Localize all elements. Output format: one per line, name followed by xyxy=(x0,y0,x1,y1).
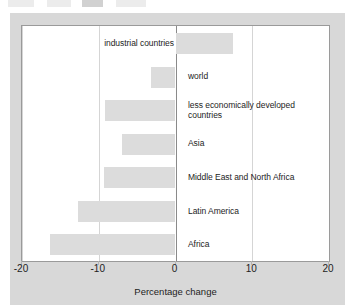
bar[interactable] xyxy=(105,100,176,121)
bar-label: Latin America xyxy=(188,206,239,216)
x-tick-label: -20 xyxy=(14,263,28,274)
toolbar-fragment xyxy=(8,0,34,7)
toolbar-fragment xyxy=(47,0,71,7)
bar[interactable] xyxy=(78,201,175,222)
toolbar-fragment xyxy=(82,0,103,7)
bar-label: less economically developed countries xyxy=(188,100,295,120)
x-tick-label: 20 xyxy=(322,263,333,274)
bar-chart-figure: industrial countriesworldless economical… xyxy=(10,13,345,305)
x-tick-label: -10 xyxy=(91,263,105,274)
x-tick-label: 0 xyxy=(172,263,178,274)
x-axis: -20-1001020 xyxy=(21,263,330,279)
bar-label: world xyxy=(188,71,208,81)
bar-label: Africa xyxy=(188,239,209,249)
bar[interactable] xyxy=(151,67,176,88)
bar-row[interactable]: Asia xyxy=(22,127,329,161)
toolbar-fragment xyxy=(116,0,146,7)
bar[interactable] xyxy=(122,134,176,155)
bar-row[interactable]: Middle East and North Africa xyxy=(22,160,329,194)
bar-row[interactable]: industrial countries xyxy=(22,26,329,60)
x-tick-label: 10 xyxy=(246,263,257,274)
bar-row[interactable]: Latin America xyxy=(22,194,329,228)
x-axis-title: Percentage change xyxy=(21,286,330,297)
plot-area: industrial countriesworldless economical… xyxy=(21,25,330,262)
bar-row[interactable]: world xyxy=(22,60,329,94)
bar-label: industrial countries xyxy=(104,38,174,48)
bar-label: Asia xyxy=(188,138,204,148)
bar[interactable] xyxy=(104,167,175,188)
cropped-toolbar-artifact xyxy=(0,0,355,11)
bar-row[interactable]: less economically developed countries xyxy=(22,93,329,127)
gridline-20 xyxy=(329,26,330,261)
bar-label: Middle East and North Africa xyxy=(188,172,294,182)
bar[interactable] xyxy=(176,33,234,54)
bar-row[interactable]: Africa xyxy=(22,227,329,261)
bar[interactable] xyxy=(50,234,176,255)
